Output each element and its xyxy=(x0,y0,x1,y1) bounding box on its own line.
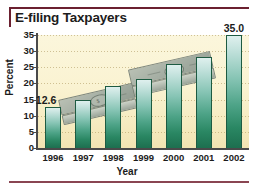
bar xyxy=(75,100,91,148)
bar xyxy=(136,79,152,148)
gridline xyxy=(38,51,249,52)
bar xyxy=(166,64,182,148)
y-axis-tick-label: 5 xyxy=(18,127,34,137)
y-axis-title: Percent xyxy=(4,48,15,108)
y-axis-tick-label: 0 xyxy=(18,143,34,153)
y-axis-tick-label: 30 xyxy=(18,46,34,56)
x-axis-title: Year xyxy=(0,166,254,177)
dollar-bill-stack: $ xyxy=(58,83,138,125)
y-axis-tick-mark xyxy=(33,148,37,149)
y-axis-tick-mark xyxy=(33,83,37,84)
bar xyxy=(226,35,242,148)
y-axis-tick-mark xyxy=(33,116,37,117)
y-axis-tick-mark xyxy=(33,67,37,68)
x-axis-tick-label: 1998 xyxy=(98,152,128,163)
frame-left-cap xyxy=(9,7,11,27)
x-axis-tick-label: 1999 xyxy=(129,152,159,163)
y-axis-tick-label: 35 xyxy=(18,30,34,40)
gridline xyxy=(38,35,249,36)
bar xyxy=(45,107,61,148)
x-axis-tick-label: 1996 xyxy=(38,152,68,163)
bar-value-label: 12.6 xyxy=(29,94,63,106)
dollar-bill-detail-line xyxy=(147,72,160,76)
bar xyxy=(196,57,212,148)
plot-area: $$ xyxy=(38,35,249,148)
frame-bottom-rule xyxy=(9,181,249,183)
y-axis-tick-mark xyxy=(33,35,37,36)
x-axis-tick-label: 2002 xyxy=(219,152,249,163)
y-axis-tick-mark xyxy=(33,51,37,52)
x-axis-tick-label: 2001 xyxy=(189,152,219,163)
y-axis-tick-label: 20 xyxy=(18,78,34,88)
frame-top-rule xyxy=(9,7,249,9)
x-axis-line xyxy=(36,148,249,150)
chart-figure: E-filing Taxpayers $$ 05101520253035 Per… xyxy=(0,0,254,187)
x-axis-tick-label: 2000 xyxy=(159,152,189,163)
y-axis-tick-label: 25 xyxy=(18,62,34,72)
y-axis-tick-mark xyxy=(33,132,37,133)
y-axis-tick-label: 10 xyxy=(18,111,34,121)
bar-value-label: 35.0 xyxy=(217,22,251,34)
x-axis-tick-label: 1997 xyxy=(68,152,98,163)
bar xyxy=(105,86,121,148)
